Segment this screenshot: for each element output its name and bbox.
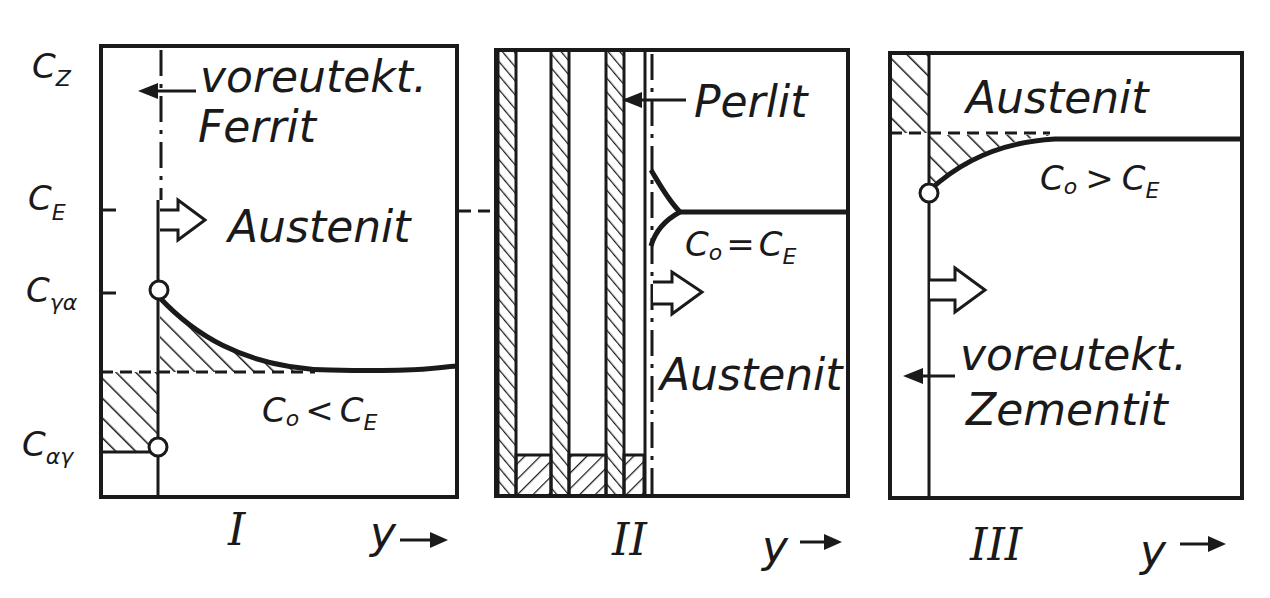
label-cz: CZ xyxy=(32,46,72,91)
phase-diagram: CZ CE Cγα Cαγ vore xyxy=(0,0,1270,598)
label-austenit: Austenit xyxy=(225,201,412,252)
y-axis-arrow: y xyxy=(1138,525,1226,576)
svg-text:y: y xyxy=(368,507,397,558)
panel-1: voreutekt. Ferrit Austenit Co<CE I y xyxy=(101,46,496,558)
lamella-2 xyxy=(551,50,569,496)
austenite-hatch xyxy=(160,298,310,372)
label-voreutekt: voreutekt. xyxy=(200,51,427,102)
hollow-arrow-right-icon xyxy=(160,200,205,240)
arrow-left-icon xyxy=(138,83,196,99)
panel-3: Austenit Co>CE voreutekt. Zementit III y xyxy=(890,53,1242,576)
point-c-alpha-gamma xyxy=(149,438,167,456)
point-c-gamma-alpha xyxy=(150,281,168,299)
label-zementit: Zementit xyxy=(965,384,1170,435)
lamella-3 xyxy=(606,50,624,496)
y-axis-arrow: y xyxy=(368,507,448,558)
y-axis-labels: CZ CE Cγα Cαγ xyxy=(22,46,78,469)
cementite-hatch xyxy=(891,55,929,133)
ferrite-hatch xyxy=(101,372,158,452)
label-c-gamma-alpha: Cγα xyxy=(26,270,78,315)
label-ce: CE xyxy=(28,178,66,225)
condition-label: Co>CE xyxy=(1040,158,1159,203)
panel-number: I xyxy=(227,504,247,555)
arrow-left-icon xyxy=(622,92,686,108)
hollow-arrow-right-icon xyxy=(653,272,702,314)
label-voreutekt: voreutekt. xyxy=(960,329,1187,380)
svg-text:y: y xyxy=(1138,525,1167,576)
panel-2: Perlit Co=CE Austenit II y xyxy=(496,50,848,572)
panel-number: II xyxy=(611,514,648,565)
y-axis-arrow: y xyxy=(760,521,842,572)
panel-number: III xyxy=(969,519,1024,570)
point-interface xyxy=(920,184,938,202)
label-ferrit: Ferrit xyxy=(198,101,318,152)
hollow-arrow-right-icon xyxy=(930,268,985,312)
label-austenit: Austenit xyxy=(657,349,844,400)
condition-label: Co=CE xyxy=(685,224,796,269)
label-austenit: Austenit xyxy=(963,72,1150,123)
svg-text:y: y xyxy=(760,521,789,572)
label-perlit: Perlit xyxy=(694,76,809,127)
label-c-alpha-gamma: Cαγ xyxy=(22,424,74,469)
lamella-1 xyxy=(498,50,516,496)
condition-label: Co<CE xyxy=(262,390,377,435)
